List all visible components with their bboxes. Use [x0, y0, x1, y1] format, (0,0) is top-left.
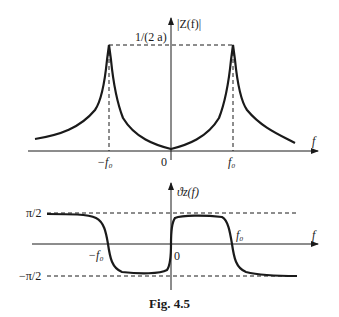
bottom-plot — [32, 183, 318, 290]
top-y-axis-label: |Z(f)| — [177, 18, 201, 30]
lower-level-label: −π/2 — [19, 270, 41, 282]
top-tick-zero: 0 — [161, 156, 167, 168]
magnitude-curve — [35, 45, 295, 149]
top-x-axis-label: f — [312, 135, 315, 147]
upper-level-label: π/2 — [26, 207, 41, 219]
top-tick-pos-f0: f₀ — [228, 156, 236, 168]
phase-curve — [47, 214, 297, 276]
top-plot — [28, 18, 318, 160]
bottom-x-axis-label: f — [312, 229, 315, 241]
bottom-tick-neg-f0: −f₀ — [88, 249, 104, 261]
peak-level-label: 1/(2 a) — [135, 31, 167, 43]
bottom-y-axis-label: ϑz(f) — [177, 186, 199, 198]
bottom-tick-zero: 0 — [174, 250, 180, 262]
figure-caption: Fig. 4.5 — [0, 296, 339, 312]
figure-canvas — [0, 0, 339, 317]
bottom-tick-pos-f0: f₀ — [236, 229, 244, 241]
top-tick-neg-f0: −f₀ — [97, 156, 113, 168]
